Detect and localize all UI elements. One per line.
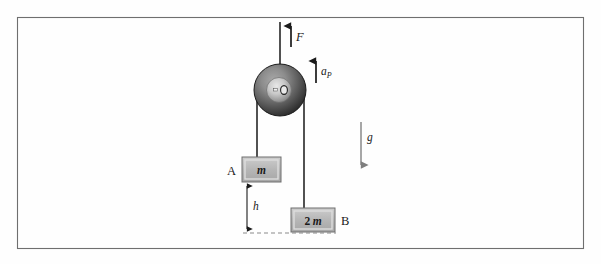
gravity-label: g: [367, 131, 373, 144]
physics-figure-root: F aP g m A 2m B h: [0, 0, 601, 264]
block-a-mass-label: m: [257, 164, 266, 176]
block-b-mass-symbol: m: [313, 215, 322, 227]
block-a-name-label: A: [227, 164, 236, 178]
block-b-mass-coefficient: 2: [304, 215, 310, 227]
pulley-axle-key: [274, 89, 278, 91]
force-f-label: F: [295, 30, 304, 44]
pulley-acceleration-subscript: P: [326, 71, 332, 80]
block-b-name-label: B: [341, 214, 349, 228]
atwood-machine-diagram: F aP g m A 2m B h: [0, 0, 601, 264]
block-b-mass-label: 2m: [304, 215, 321, 227]
height-label: h: [253, 200, 259, 212]
pulley-axle-hole: [281, 86, 288, 95]
